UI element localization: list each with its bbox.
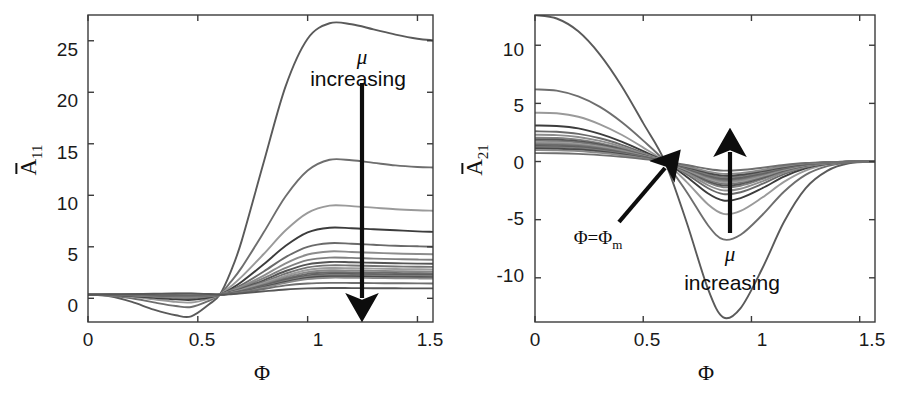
xtick-label-a11-1: 1 [313,330,324,349]
ytick-label-a21-10: 10 [468,40,524,59]
yaxis-title-a21: A21 [463,115,490,205]
yaxis-title-a11-main: A [16,159,41,176]
ytick-label-a11-20: 20 [18,91,78,110]
xaxis-title-a11: Φ [254,362,270,384]
xtick-label-a11-0: 0 [83,330,94,349]
xtick-label-a11-1p5: 1.5 [417,330,443,349]
ytick-label-a11-25: 25 [18,40,78,59]
yaxis-title-a21-sub: 21 [475,144,491,159]
ytick-label-a11-0: 0 [18,296,78,315]
yaxis-title-a21-main: A [462,159,487,176]
increasing-label-a11: increasing [310,68,406,90]
yaxis-title-a11: A11 [17,115,44,205]
xtick-label-a21-0: 0 [530,330,541,349]
mu-label-a21: μ [725,243,736,265]
ytick-label-a21-neg5: -5 [468,209,524,228]
plot-svg-a21 [460,0,913,402]
xtick-label-a21-1: 1 [757,330,768,349]
xaxis-title-a21: Φ [698,362,714,384]
xtick-label-a11-0p5: 0.5 [189,330,215,349]
xtick-label-a21-1p5: 1.5 [859,330,885,349]
yaxis-title-a11-sub: 11 [29,144,45,158]
phi-m-sub: m [612,237,622,252]
plot-panel-a21: -10 -5 0 5 10 0 0.5 1 1.5 Φ A21 μ increa… [460,0,913,402]
phi-equals-phi-m-label: Φ=Φm [574,228,623,252]
increasing-label-a21: increasing [684,272,780,294]
phi-m-pointer-arrow [619,168,665,222]
phi-m-main: Φ=Φ [574,227,613,248]
ytick-label-a11-5: 5 [18,245,78,264]
mu-label-a11: μ [357,46,368,68]
xtick-label-a21-0p5: 0.5 [634,330,660,349]
figure-container: 0 5 10 15 20 25 0 0.5 1 1.5 Φ A11 μ incr… [0,0,913,402]
ytick-label-a21-5: 5 [468,96,524,115]
plot-panel-a11: 0 5 10 15 20 25 0 0.5 1 1.5 Φ A11 μ incr… [0,0,460,402]
ytick-label-a21-neg10: -10 [468,266,524,285]
